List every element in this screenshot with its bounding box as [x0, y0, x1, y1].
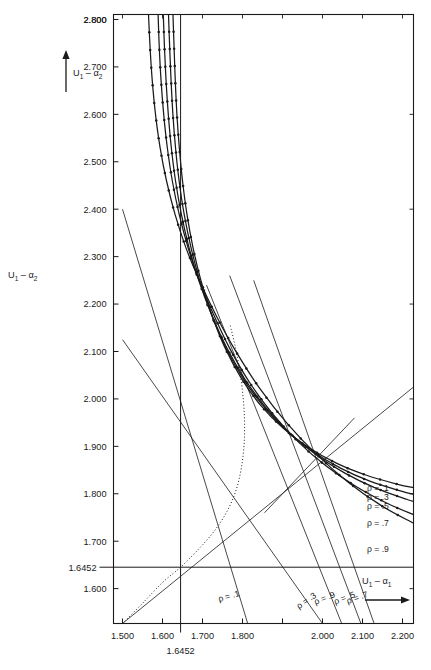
curve-marker	[299, 437, 302, 440]
curve-marker	[184, 220, 187, 223]
curve-marker	[224, 338, 227, 341]
x-special-tick-label: 1.6452	[167, 646, 195, 656]
y-axis-arrow-label: U1 – α2	[73, 68, 103, 80]
curve-marker	[237, 367, 240, 370]
curve-marker	[178, 151, 181, 154]
x-tick-label: 2.100	[351, 631, 374, 641]
y-tick-label: 2.000	[84, 394, 107, 404]
curve-marker	[185, 240, 188, 243]
curve-marker	[161, 101, 164, 104]
x-tick-label: 1.600	[151, 631, 174, 641]
curve-marker	[195, 273, 198, 276]
curve-marker	[241, 369, 244, 372]
curve-marker	[346, 467, 349, 470]
curve-marker	[160, 84, 163, 87]
y-tick-label: 2.100	[84, 347, 107, 357]
curve-marker	[213, 320, 216, 323]
curve-marker	[180, 223, 183, 226]
curve-marker	[312, 450, 315, 453]
curve-marker	[151, 84, 154, 87]
curve-marker	[155, 119, 158, 122]
curve-marker	[177, 169, 180, 172]
curve-marker	[172, 117, 175, 120]
curve-marker	[396, 507, 399, 510]
curve-marker	[168, 31, 171, 33]
curve-marker	[167, 154, 170, 157]
curve-marker	[164, 65, 167, 68]
curve-marker	[174, 82, 177, 85]
curve-marker	[181, 203, 184, 206]
curve-marker	[352, 485, 355, 488]
y-tick-label: 2.200	[84, 299, 107, 309]
curve-marker	[216, 322, 219, 325]
curve-marker	[363, 478, 366, 481]
curve-marker	[228, 352, 231, 355]
curve-marker	[157, 31, 160, 34]
curve-marker	[333, 465, 336, 468]
curve-marker	[182, 185, 185, 188]
y-tick-label: 2.300	[84, 252, 107, 262]
y-tick-label: 1.600	[84, 584, 107, 594]
curve-marker	[175, 187, 178, 190]
curve-marker	[363, 482, 366, 485]
curve-marker	[347, 471, 350, 474]
x-tick-label: 2.000	[311, 631, 334, 641]
curve-marker	[171, 152, 174, 155]
y-tick-label: 2.600	[84, 110, 107, 120]
y-axis-arrow-head	[62, 50, 69, 59]
y-tick-label: 1.900	[84, 442, 107, 452]
curve-marker	[175, 151, 178, 154]
x-tick-label: 1.700	[191, 631, 214, 641]
curve-marker	[227, 337, 230, 340]
curve-marker	[294, 438, 297, 441]
curve-marker	[149, 49, 152, 52]
x-tick-label: 1.500	[111, 631, 134, 641]
curve-marker	[184, 202, 187, 205]
curve-marker	[163, 48, 166, 51]
curve-marker	[187, 219, 190, 222]
plot-frame	[114, 15, 414, 624]
curve-marker	[170, 171, 173, 174]
curve-marker	[173, 134, 176, 137]
curve-marker	[177, 133, 180, 136]
curve-marker	[172, 206, 175, 209]
curve-marker	[395, 483, 398, 486]
curve-marker	[210, 305, 213, 308]
curve-marker	[288, 424, 291, 427]
curve-marker	[189, 257, 192, 260]
curve-marker	[153, 102, 156, 105]
y-special-tick-label: 1.6452	[68, 563, 96, 573]
curve-marker	[173, 188, 176, 191]
curve-marker	[176, 116, 179, 119]
curve-marker	[169, 65, 172, 68]
curve-marker	[166, 100, 169, 103]
curve-marker	[173, 65, 176, 68]
curve-marker	[379, 478, 382, 481]
curve-marker	[203, 289, 206, 292]
curve-marker	[321, 461, 324, 464]
curve-marker	[331, 460, 334, 463]
curve-marker	[173, 169, 176, 172]
curve-marker	[173, 48, 176, 51]
curve-marker	[307, 450, 310, 453]
curve-marker	[396, 489, 399, 492]
curve-marker	[159, 66, 162, 69]
curve-marker	[170, 82, 173, 85]
curve-marker	[255, 382, 258, 385]
curve-marker	[176, 206, 179, 209]
curve-marker	[163, 119, 166, 122]
x-tick-label: 2.200	[391, 631, 414, 641]
y-tick-label: 1.800	[84, 489, 107, 499]
curve-marker	[165, 136, 168, 139]
curve-marker	[177, 223, 180, 226]
curve-marker	[232, 353, 235, 356]
curve-marker	[276, 410, 279, 413]
curve-marker	[348, 474, 351, 477]
legend-label-3: ρ = .7	[367, 518, 389, 528]
y-tick-label: 1.700	[84, 537, 107, 547]
y-tick-label-top: 2.800	[84, 15, 107, 25]
curve-marker	[175, 99, 178, 102]
curve-marker	[236, 352, 239, 355]
curve-marker	[179, 186, 182, 189]
legend-label-2: ρ = .5	[367, 501, 389, 511]
